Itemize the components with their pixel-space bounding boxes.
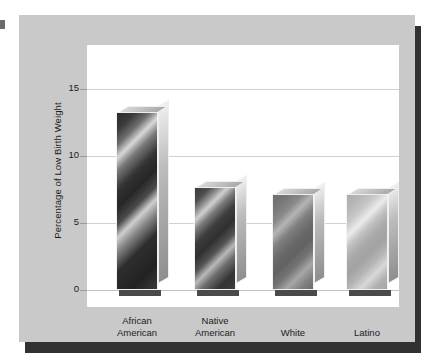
y-tick-label: 5 <box>49 216 79 227</box>
y-tick-mark <box>80 290 87 291</box>
y-tick-mark <box>80 89 87 90</box>
y-tick-label: 10 <box>49 149 79 160</box>
bar-front-face <box>272 194 314 290</box>
figure-panel: Percentage of Low Birth Weight 151050 Af… <box>19 15 415 342</box>
bar <box>346 194 388 290</box>
y-tick-mark <box>80 223 87 224</box>
bar-body <box>116 112 158 290</box>
y-axis-title: Percentage of Low Birth Weight <box>52 71 63 271</box>
bar-side-face <box>236 174 247 284</box>
bar-side-face <box>158 99 169 284</box>
category-label-line: Latino <box>322 327 412 339</box>
bar <box>272 194 314 290</box>
bar <box>116 112 158 290</box>
y-tick-mark <box>80 156 87 157</box>
bar-base-shadow <box>197 290 239 296</box>
bar-front-face <box>346 194 388 290</box>
bar <box>194 187 236 290</box>
category-label-line: Native <box>170 315 260 327</box>
category-label: AfricanAmerican <box>92 315 182 339</box>
y-tick-label: 0 <box>49 283 79 294</box>
plot-canvas <box>87 45 399 307</box>
bar-side-face <box>388 181 399 284</box>
bar-front-face <box>194 187 236 290</box>
bar-body <box>346 194 388 290</box>
bar-body <box>194 187 236 290</box>
category-label: NativeAmerican <box>170 315 260 339</box>
bar-side-face <box>314 181 325 284</box>
category-label-line: American <box>170 327 260 339</box>
category-label-line: American <box>92 327 182 339</box>
bar-body <box>272 194 314 290</box>
category-label: Latino <box>322 327 412 339</box>
bar-base-shadow <box>275 290 317 296</box>
bar-base-shadow <box>119 290 161 296</box>
gridline-15 <box>87 89 399 90</box>
bar-front-face <box>116 112 158 290</box>
category-label-line: African <box>92 315 182 327</box>
page-edge-mark <box>0 20 5 29</box>
y-tick-label: 15 <box>49 82 79 93</box>
bar-base-shadow <box>349 290 391 296</box>
